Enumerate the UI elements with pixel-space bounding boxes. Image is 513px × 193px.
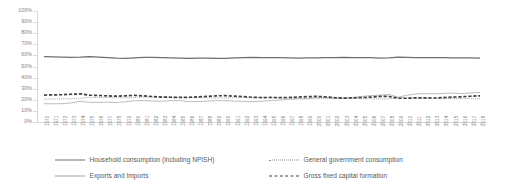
x-axis-tick-label: 1988 <box>209 116 214 126</box>
x-axis-tick-label: 1972 <box>64 116 69 126</box>
x-axis-tick-label: 1974 <box>82 116 87 126</box>
x-axis-tick-label: 1995 <box>273 116 278 126</box>
line-chart: 100%90%80%70%60%50%40%30%20%10%0% 197019… <box>0 0 513 193</box>
x-axis-tick-label: 2011 <box>418 116 423 126</box>
x-axis-tick-label: 2000 <box>318 116 323 126</box>
x-axis-tick-label: 2003 <box>346 116 351 126</box>
x-axis-tick-label: 1976 <box>100 116 105 126</box>
legend-item-gross-fixed-capital-formation[interactable]: Gross fixed capital formation <box>269 172 459 180</box>
x-axis-tick-label: 2006 <box>373 116 378 126</box>
x-axis-tick-label: 1994 <box>264 116 269 126</box>
legend-key-solid-thin-icon <box>55 172 85 180</box>
x-axis-tick-label: 1979 <box>128 116 133 126</box>
x-axis-tick-label: 1990 <box>227 116 232 126</box>
x-axis-tick-label: 1986 <box>191 116 196 126</box>
x-axis-tick-label: 1998 <box>300 116 305 126</box>
x-axis-tick-label: 1971 <box>55 116 60 126</box>
x-axis-tick-label: 2005 <box>364 116 369 126</box>
x-axis-tick-label: 1980 <box>137 116 142 126</box>
legend-item-exports-and-imports[interactable]: Exports and Imports <box>55 172 269 180</box>
x-axis-tick-label: 1999 <box>309 116 314 126</box>
series-canvas <box>37 11 487 122</box>
legend-label: Gross fixed capital formation <box>304 172 388 180</box>
legend-key-solid-thick-icon <box>55 156 85 164</box>
legend-label: General government consumption <box>304 156 403 164</box>
x-axis-tick-label: 2018 <box>482 116 487 126</box>
y-axis-tick-label: 0% <box>24 119 32 124</box>
y-axis-tick-label: 30% <box>21 86 32 91</box>
x-axis-tick-label: 1981 <box>146 116 151 126</box>
x-axis-tick-label: 2014 <box>445 116 450 126</box>
legend-item-household-consumption[interactable]: Household consumption (including NPISH) <box>55 156 269 164</box>
x-axis-tick-label: 2012 <box>427 116 432 126</box>
x-axis-tick-label: 1973 <box>73 116 78 126</box>
series-line <box>44 94 480 98</box>
y-axis-tick-label: 100% <box>18 8 32 13</box>
x-axis-tick-label: 1983 <box>164 116 169 126</box>
y-axis-tick-label: 90% <box>21 19 32 24</box>
y-axis-tick-label: 70% <box>21 42 32 47</box>
x-axis-tick-label: 1978 <box>118 116 123 126</box>
x-axis-tick-label: 2015 <box>455 116 460 126</box>
y-axis-tick-label: 50% <box>21 64 32 69</box>
x-axis-tick-label: 2004 <box>355 116 360 126</box>
x-axis-tick-label: 2007 <box>382 116 387 126</box>
x-axis-tick-label: 1991 <box>237 116 242 126</box>
series-line <box>44 57 480 59</box>
x-axis-tick-label: 2002 <box>336 116 341 126</box>
legend-label: Exports and Imports <box>90 172 149 180</box>
x-axis-tick-label: 1997 <box>291 116 296 126</box>
x-axis-tick-label: 1992 <box>246 116 251 126</box>
x-axis-tick-label: 1984 <box>173 116 178 126</box>
y-axis-tick-label: 20% <box>21 97 32 102</box>
x-axis-tick-label: 2001 <box>327 116 332 126</box>
legend-row-2: Exports and Imports Gross fixed capital … <box>0 169 513 183</box>
legend-key-dashed-bold-icon <box>269 172 299 180</box>
x-axis-labels: 1970197119721973197419751976197719781979… <box>0 126 513 150</box>
x-axis-tick-label: 1985 <box>182 116 187 126</box>
x-axis-tick-label: 2016 <box>464 116 469 126</box>
y-axis-tick <box>33 122 37 123</box>
x-axis-tick-label: 2008 <box>391 116 396 126</box>
x-axis-tick-label: 1989 <box>218 116 223 126</box>
x-axis-tick-label: 1993 <box>255 116 260 126</box>
y-axis-tick-label: 10% <box>21 108 32 113</box>
y-axis-tick-label: 80% <box>21 31 32 36</box>
legend-key-dotted-icon <box>269 156 299 164</box>
chart-legend: Household consumption (including NPISH) … <box>0 150 513 193</box>
x-axis-tick-label: 1996 <box>282 116 287 126</box>
y-axis-tick-label: 60% <box>21 53 32 58</box>
y-axis-tick-label: 40% <box>21 75 32 80</box>
x-axis-tick-label: 1982 <box>155 116 160 126</box>
legend-item-government-consumption[interactable]: General government consumption <box>269 156 459 164</box>
x-axis-tick-label: 2017 <box>473 116 478 126</box>
x-axis-tick-label: 1977 <box>109 116 114 126</box>
x-axis-tick-label: 2009 <box>400 116 405 126</box>
x-axis-tick-label: 2010 <box>409 116 414 126</box>
legend-label: Household consumption (including NPISH) <box>90 156 215 164</box>
x-axis-tick-label: 1975 <box>91 116 96 126</box>
legend-row-1: Household consumption (including NPISH) … <box>0 153 513 167</box>
x-axis-tick-label: 2013 <box>436 116 441 126</box>
x-axis-tick-label: 1987 <box>200 116 205 126</box>
x-axis-tick-label: 1970 <box>46 116 51 126</box>
